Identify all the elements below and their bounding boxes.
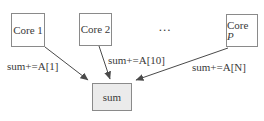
parallel-sum-diagram: Core 1 Core 2 ... Core P sum+=A[1] sum+=… xyxy=(0,0,264,121)
node-sum-label: sum xyxy=(103,92,121,103)
ellipsis-more-cores: ... xyxy=(155,20,175,33)
edge-label-core1: sum+=A[1] xyxy=(7,61,59,72)
edge-label-core2: sum+=A[10] xyxy=(108,55,165,66)
edge-label-corep: sum+=A[N] xyxy=(192,62,246,73)
node-core-p: Core P xyxy=(226,14,258,47)
node-core-1: Core 1 xyxy=(11,13,45,47)
node-core-p-label: Core P xyxy=(227,20,257,42)
node-core-2: Core 2 xyxy=(79,13,112,46)
node-sum: sum xyxy=(92,83,132,111)
node-core-1-label: Core 1 xyxy=(13,25,43,36)
node-core-2-label: Core 2 xyxy=(81,24,111,35)
